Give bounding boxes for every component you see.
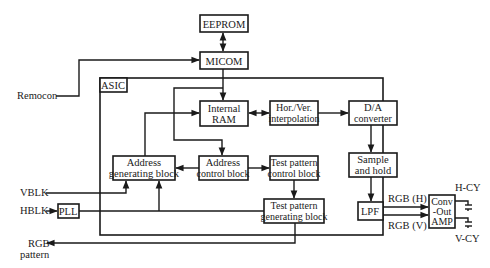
eeprom-label: EEPROM bbox=[203, 19, 246, 30]
v-cy-label: V-CY bbox=[455, 233, 480, 244]
rgb-pattern-label-2: pattern bbox=[20, 249, 50, 260]
test-gen-label-2: generating block bbox=[261, 211, 328, 222]
test-ctrl-label-1: Test pattern bbox=[271, 157, 318, 168]
hblk-label: HBLK bbox=[20, 205, 49, 216]
block-diagram: ASIC EEPROM MICOM Remocon Internal RAM H… bbox=[0, 0, 490, 268]
h-cy-output-connector bbox=[455, 201, 472, 211]
da-label-1: D/A bbox=[364, 102, 383, 113]
interpolation-label-2: interpolation bbox=[268, 113, 319, 124]
rgb-v-label: RGB (V) bbox=[388, 220, 427, 232]
da-label-2: converter bbox=[354, 113, 392, 124]
test-gen-label-1: Test pattern bbox=[271, 200, 318, 211]
sample-hold-label-1: Sample bbox=[357, 154, 389, 165]
asic-label: ASIC bbox=[101, 80, 125, 91]
vblk-label: VBLK bbox=[20, 187, 49, 198]
micom-label: MICOM bbox=[206, 56, 243, 67]
rgb-h-label: RGB (H) bbox=[388, 193, 427, 205]
address-gen-label-2: generating block bbox=[109, 168, 180, 179]
rgb-pattern-label-1: RGB bbox=[28, 238, 50, 249]
address-ctrl-label-2: control block bbox=[196, 168, 249, 179]
interpolation-label-1: Hor./Ver. bbox=[276, 102, 312, 113]
internal-ram-label-1: Internal bbox=[208, 103, 241, 114]
h-cy-label: H-CY bbox=[455, 182, 481, 193]
amp-label-3: AMP bbox=[431, 216, 453, 227]
lpf-label: LPF bbox=[361, 206, 379, 217]
sample-hold-label-2: and hold bbox=[355, 165, 392, 176]
test-ctrl-label-2: control block bbox=[267, 168, 320, 179]
internal-ram-label-2: RAM bbox=[212, 114, 237, 125]
pll-label: PLL bbox=[59, 206, 78, 217]
remocon-label: Remocon bbox=[17, 90, 58, 101]
v-cy-output-connector bbox=[455, 218, 472, 228]
address-gen-label-1: Address bbox=[127, 157, 161, 168]
address-ctrl-label-1: Address bbox=[206, 157, 240, 168]
